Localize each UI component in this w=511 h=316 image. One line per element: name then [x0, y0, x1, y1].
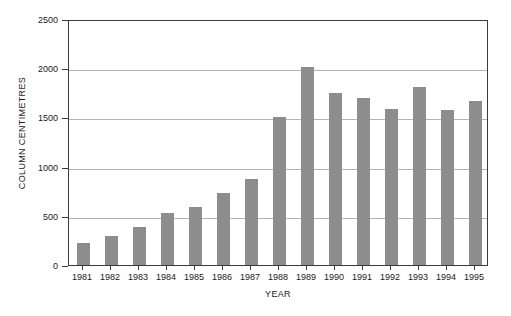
x-tick-label-1991: 1991 [345, 272, 379, 282]
x-tick-mark-1982 [110, 266, 111, 270]
x-tick-label-1989: 1989 [289, 272, 323, 282]
x-tick-mark-1984 [166, 266, 167, 270]
x-axis-title: YEAR [68, 289, 488, 299]
x-tick-mark-1995 [474, 266, 475, 270]
x-tick-mark-1985 [194, 266, 195, 270]
bar-1992 [385, 109, 398, 265]
x-tick-mark-1993 [418, 266, 419, 270]
x-tick-label-1993: 1993 [401, 272, 435, 282]
x-tick-mark-1986 [222, 266, 223, 270]
bar-1989 [301, 67, 314, 265]
bar-1981 [77, 243, 90, 265]
x-tick-label-1994: 1994 [429, 272, 463, 282]
y-axis-title: COLUMN CENTIMETRES [12, 0, 32, 266]
bar-1994 [441, 110, 454, 265]
x-tick-mark-1981 [82, 266, 83, 270]
bars-group [69, 21, 487, 265]
plot-area [68, 20, 488, 266]
x-tick-label-1981: 1981 [65, 272, 99, 282]
bar-1985 [189, 207, 202, 265]
bar-1993 [413, 87, 426, 265]
x-tick-label-1986: 1986 [205, 272, 239, 282]
bar-1995 [469, 101, 482, 265]
x-tick-mark-1983 [138, 266, 139, 270]
bar-1991 [357, 98, 370, 265]
x-tick-label-1992: 1992 [373, 272, 407, 282]
x-tick-mark-1988 [278, 266, 279, 270]
x-tick-mark-1987 [250, 266, 251, 270]
bar-1988 [273, 117, 286, 265]
y-tick-mark-0 [62, 266, 68, 267]
bar-chart-figure: COLUMN CENTIMETRES 05001000150020002500 … [0, 0, 511, 316]
x-tick-mark-1989 [306, 266, 307, 270]
x-tick-label-1990: 1990 [317, 272, 351, 282]
x-tick-mark-1991 [362, 266, 363, 270]
bar-1983 [133, 227, 146, 265]
bar-1987 [245, 179, 258, 265]
x-tick-label-1982: 1982 [93, 272, 127, 282]
x-tick-label-1987: 1987 [233, 272, 267, 282]
x-tick-label-1988: 1988 [261, 272, 295, 282]
bar-1990 [329, 93, 342, 265]
bar-1984 [161, 213, 174, 265]
bar-1986 [217, 193, 230, 265]
x-tick-mark-1990 [334, 266, 335, 270]
x-tick-label-1995: 1995 [457, 272, 491, 282]
x-tick-label-1983: 1983 [121, 272, 155, 282]
x-tick-label-1985: 1985 [177, 272, 211, 282]
x-tick-mark-1994 [446, 266, 447, 270]
x-tick-mark-1992 [390, 266, 391, 270]
x-tick-label-1984: 1984 [149, 272, 183, 282]
bar-1982 [105, 236, 118, 265]
